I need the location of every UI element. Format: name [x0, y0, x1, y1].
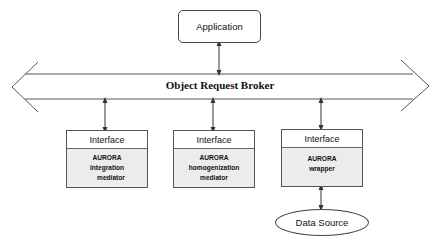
- component-line: homogenization: [189, 163, 240, 173]
- component-line: wrapper: [309, 164, 335, 174]
- data-source-node: Data Source: [275, 209, 369, 236]
- interface-header: Interface: [67, 131, 147, 149]
- data-source-label: Data Source: [296, 217, 349, 228]
- component-line: mediator: [89, 173, 125, 183]
- component-line: AURORA: [200, 153, 229, 163]
- component-body: AURORA wrapper: [282, 148, 362, 186]
- component-body: AURORA integration mediator: [67, 149, 147, 187]
- application-label: Application: [196, 21, 242, 32]
- interface-header: Interface: [174, 131, 254, 149]
- component-line: AURORA: [93, 153, 122, 163]
- homogenization-mediator-component: Interface AURORA homogenization mediator: [173, 130, 255, 188]
- component-line: AURORA: [308, 154, 337, 164]
- integration-mediator-component: Interface AURORA integration mediator: [66, 130, 148, 188]
- interface-header: Interface: [282, 130, 362, 148]
- orb-label: Object Request Broker: [120, 79, 320, 91]
- component-line: integration: [90, 163, 124, 173]
- component-body: AURORA homogenization mediator: [174, 149, 254, 187]
- application-node: Application: [178, 10, 261, 43]
- wrapper-component: Interface AURORA wrapper: [281, 129, 363, 187]
- component-line: mediator: [200, 173, 228, 183]
